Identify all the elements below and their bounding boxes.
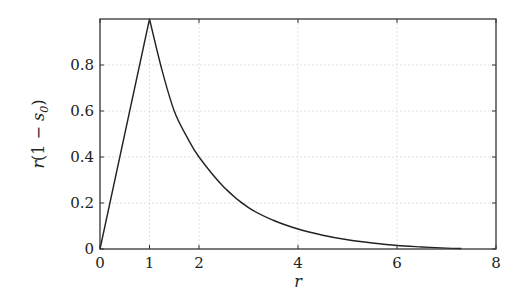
y-tick-label: 0.4 bbox=[70, 148, 94, 166]
x-tick-label: 0 bbox=[95, 254, 105, 272]
x-axis-label: r bbox=[294, 272, 303, 291]
axis-ticks: 01246800.20.40.60.8 bbox=[70, 19, 501, 272]
series-line bbox=[100, 19, 461, 249]
y-axis-label: r(1 − s0) bbox=[29, 99, 51, 168]
plot-frame bbox=[100, 19, 496, 249]
x-tick-label: 6 bbox=[392, 254, 402, 272]
x-tick-label: 4 bbox=[293, 254, 303, 272]
chart: 01246800.20.40.60.8 r r(1 − s0) bbox=[0, 0, 527, 307]
x-tick-label: 2 bbox=[194, 254, 204, 272]
data-series bbox=[100, 19, 461, 249]
y-tick-label: 0.6 bbox=[70, 102, 94, 120]
y-tick-label: 0 bbox=[84, 240, 94, 258]
x-tick-label: 1 bbox=[145, 254, 155, 272]
x-tick-label: 8 bbox=[491, 254, 501, 272]
y-tick-label: 0.2 bbox=[70, 194, 94, 212]
gridlines bbox=[100, 19, 496, 249]
y-tick-label: 0.8 bbox=[70, 56, 94, 74]
